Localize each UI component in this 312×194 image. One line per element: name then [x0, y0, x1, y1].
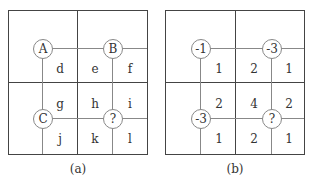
cell-e: e	[85, 61, 105, 77]
cell-r1c2: 2	[244, 61, 264, 77]
cell-r3c1: 1	[209, 131, 229, 147]
cell-r1c1: 1	[209, 61, 229, 77]
thin-line-h-top	[43, 48, 147, 49]
node-bottom-left: -3	[191, 109, 211, 129]
cell-j: j	[50, 131, 70, 147]
cell-d: d	[50, 61, 70, 77]
cell-i: i	[120, 96, 140, 112]
cell-r1c3: 1	[279, 61, 299, 77]
node-a: A	[33, 39, 53, 59]
cell-g: g	[50, 96, 70, 112]
node-top-right: -3	[262, 39, 282, 59]
node-unknown: ?	[103, 109, 123, 129]
thin-line-v-left	[42, 49, 43, 154]
midline-horizontal	[166, 82, 304, 83]
cell-r2c2: 4	[244, 96, 264, 112]
cell-h: h	[85, 96, 105, 112]
node-c: C	[33, 109, 53, 129]
panel-b: -1 -3 -3 ? 1 2 1 2 4 2 1 2 1	[165, 10, 305, 155]
cell-f: f	[120, 61, 140, 77]
cell-r3c2: 2	[244, 131, 264, 147]
cell-r3c3: 1	[279, 131, 299, 147]
panel-a: A B C ? d e f g h i j k l	[8, 10, 148, 155]
thin-line-v-left	[200, 49, 201, 154]
thin-line-h-bottom	[43, 118, 147, 119]
thin-line-v-right	[271, 49, 272, 154]
caption-a: (a)	[58, 162, 98, 176]
thin-line-h-top	[201, 48, 304, 49]
caption-b: (b)	[215, 162, 255, 176]
cell-r2c3: 2	[279, 96, 299, 112]
thin-line-h-bottom	[201, 118, 304, 119]
cell-k: k	[85, 131, 105, 147]
node-b: B	[103, 39, 123, 59]
midline-horizontal	[9, 82, 147, 83]
thin-line-v-right	[112, 49, 113, 154]
cell-l: l	[120, 131, 140, 147]
node-unknown: ?	[262, 109, 282, 129]
node-top-left: -1	[191, 39, 211, 59]
cell-r2c1: 2	[209, 96, 229, 112]
